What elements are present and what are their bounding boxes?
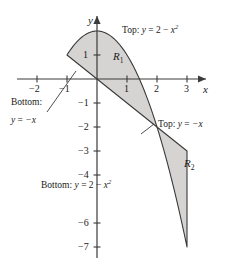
x-tick-label--1: −1	[59, 84, 70, 94]
callout-bottom-parabola-lhs: y	[75, 180, 79, 190]
callout-top-line: Top: y = −x	[158, 120, 203, 130]
y-axis-name: y	[88, 15, 93, 26]
region-r2	[157, 127, 187, 247]
callout-top-parabola-const: 2 −	[156, 25, 171, 35]
region-label-r2: R2	[184, 158, 194, 169]
callout-bottom-parabola-exponent: 2	[108, 178, 111, 185]
x-tick-label--2: −2	[29, 84, 40, 94]
callout-top-parabola: Top: y = 2 − x2	[122, 26, 178, 36]
y-axis-arrowhead	[93, 16, 100, 24]
callout-bottom-parabola-equals: =	[81, 180, 86, 190]
x-tick-label-3: 3	[184, 84, 189, 94]
callout-bottom-line-equals: =	[18, 115, 23, 125]
callout-bottom-parabola-keyword: Bottom:	[41, 180, 72, 190]
plot-canvas	[0, 0, 226, 268]
callout-top-line-equals: =	[184, 119, 189, 129]
y-tick-label--6: −6	[78, 218, 89, 228]
callout-bottom-line-equation: y = −x	[11, 116, 36, 126]
callout-top-parabola-keyword: Top:	[122, 25, 139, 35]
region-label-r1-letter: R	[113, 50, 120, 62]
callout-top-line-keyword: Top:	[158, 119, 175, 129]
region-label-r1-subscript: 1	[120, 56, 124, 65]
y-tick-label--2: −2	[78, 122, 89, 132]
math-figure: −2 −1 1 2 3 1 −1 −2 −3 −4 −6 −7 y x R1 R…	[0, 0, 226, 268]
region-label-r2-letter: R	[184, 157, 191, 169]
y-tick-label--3: −3	[78, 146, 89, 156]
callout-top-parabola-lhs: y	[142, 25, 146, 35]
callout-bottom-line-lhs: y	[11, 115, 15, 125]
y-tick-label-1: 1	[83, 50, 88, 60]
x-axis-name: x	[203, 84, 208, 95]
y-tick-label--1: −1	[78, 98, 89, 108]
callout-bottom-line-rhs: −x	[25, 115, 36, 125]
x-axis-arrowhead	[198, 75, 206, 82]
callout-top-parabola-exponent: 2	[175, 23, 178, 30]
region-label-r2-subscript: 2	[191, 163, 195, 172]
top-line-leader	[141, 124, 154, 134]
region-label-r1: R1	[113, 51, 123, 62]
y-tick-label--7: −7	[78, 242, 89, 252]
callout-bottom-parabola: Bottom: y = 2 − x2	[41, 181, 111, 191]
callout-bottom-line-keyword-line: Bottom:	[11, 98, 42, 108]
callout-bottom-parabola-const: 2 −	[89, 180, 104, 190]
callout-top-parabola-equals: =	[148, 25, 153, 35]
callout-top-line-rhs: −x	[192, 119, 203, 129]
x-tick-label-2: 2	[154, 84, 159, 94]
x-tick-label-1: 1	[124, 84, 129, 94]
callout-top-line-lhs: y	[178, 119, 182, 129]
y-tick-label--4: −4	[78, 170, 89, 180]
callout-bottom-line-keyword: Bottom:	[11, 97, 42, 107]
